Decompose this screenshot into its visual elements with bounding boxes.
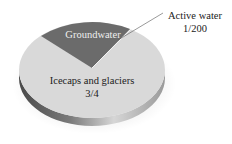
label-active-water-value: 1/200 [160,23,230,35]
label-icecaps: Icecaps and glaciers [42,75,142,87]
label-icecaps-value: 3/4 [42,88,142,100]
label-active-water: Active water [160,10,230,22]
label-groundwater: Groundwater [58,29,128,41]
